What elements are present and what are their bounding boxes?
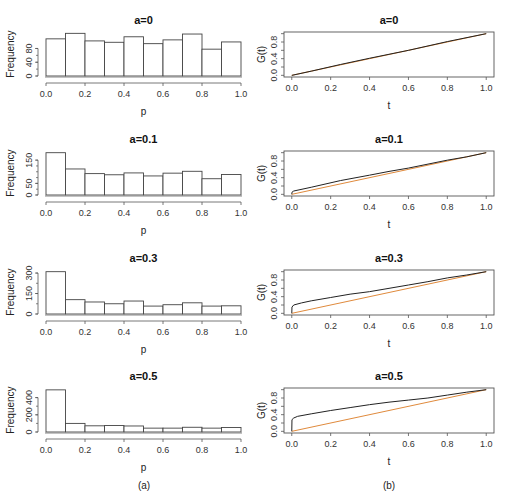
histogram-bar bbox=[202, 49, 222, 76]
y-tick-label: 400 bbox=[24, 390, 34, 405]
x-tick-label: 0.2 bbox=[324, 202, 337, 212]
empirical-curve bbox=[292, 34, 486, 76]
x-tick-label: 0.0 bbox=[286, 439, 299, 449]
x-axis-label: p bbox=[141, 225, 147, 236]
panels: a=00.00.20.40.60.81.0p04080Frequencya=00… bbox=[5, 14, 494, 473]
histogram-bar bbox=[183, 171, 203, 195]
y-tick-label: 150 bbox=[24, 286, 34, 301]
y-tick-label: 0 bbox=[24, 192, 34, 197]
x-tick-label: 1.0 bbox=[480, 321, 493, 331]
x-tick-label: 0.0 bbox=[286, 321, 299, 331]
x-tick-label: 0.0 bbox=[40, 89, 53, 99]
histogram-bar bbox=[144, 176, 164, 195]
chart-a-a=0.1: a=0.10.00.20.40.60.81.0p050150Frequency bbox=[5, 133, 247, 236]
x-tick-label: 0.4 bbox=[118, 208, 131, 218]
y-tick-label: 0.8 bbox=[269, 155, 279, 168]
x-tick-label: 0.0 bbox=[40, 208, 53, 218]
x-tick-label: 0.8 bbox=[441, 321, 454, 331]
y-tick-label: 0.4 bbox=[269, 171, 279, 184]
chart-title: a=0.1 bbox=[375, 133, 403, 145]
x-tick-label: 0.6 bbox=[402, 83, 415, 93]
histogram-bar bbox=[46, 272, 66, 314]
histogram-bar bbox=[105, 42, 125, 76]
histogram-bar bbox=[85, 426, 105, 432]
chart-title: a=0 bbox=[380, 14, 399, 26]
y-axis-label: G(t) bbox=[256, 284, 267, 301]
histogram-bar bbox=[163, 40, 183, 76]
histogram-bar bbox=[85, 41, 105, 76]
x-tick-label: 0.8 bbox=[196, 327, 209, 337]
chart-title: a=0.5 bbox=[375, 370, 403, 382]
chart-b-a=0.3: a=0.30.00.20.40.60.81.0t0.00.40.8G(t) bbox=[256, 252, 494, 349]
x-tick-label: 0.4 bbox=[363, 202, 376, 212]
histogram-bar bbox=[85, 302, 105, 314]
x-axis-label: t bbox=[388, 100, 391, 111]
x-tick-label: 0.4 bbox=[118, 327, 131, 337]
chart-title: a=0 bbox=[134, 14, 153, 26]
x-tick-label: 0.0 bbox=[40, 445, 53, 455]
y-tick-label: 50 bbox=[24, 178, 34, 188]
chart-title: a=0.3 bbox=[375, 252, 403, 264]
histogram-bar bbox=[222, 42, 242, 76]
x-tick-label: 0.6 bbox=[402, 321, 415, 331]
y-tick-label: 0.0 bbox=[269, 307, 279, 320]
y-tick-label: 0 bbox=[24, 311, 34, 316]
x-tick-label: 0.2 bbox=[324, 321, 337, 331]
histogram-bar bbox=[144, 306, 164, 314]
x-tick-label: 0.8 bbox=[441, 83, 454, 93]
y-axis-label: Frequency bbox=[5, 386, 16, 433]
x-tick-label: 0.0 bbox=[40, 327, 53, 337]
y-axis-label: G(t) bbox=[256, 46, 267, 63]
histogram-bar bbox=[46, 39, 66, 76]
x-tick-label: 0.0 bbox=[286, 83, 299, 93]
reference-line bbox=[292, 390, 486, 432]
x-tick-label: 1.0 bbox=[480, 439, 493, 449]
chart-title: a=0.1 bbox=[130, 133, 158, 145]
x-axis-label: p bbox=[141, 462, 147, 473]
caption-a: (a) bbox=[138, 480, 150, 491]
y-tick-label: 0.4 bbox=[269, 290, 279, 303]
histogram-bar bbox=[66, 33, 86, 76]
caption-b: (b) bbox=[383, 480, 395, 491]
x-tick-label: 0.8 bbox=[196, 89, 209, 99]
histogram-bar bbox=[124, 426, 144, 432]
y-tick-label: 80 bbox=[24, 43, 34, 53]
histogram-bar bbox=[222, 175, 242, 195]
y-tick-label: 40 bbox=[24, 57, 34, 67]
histogram-bar bbox=[202, 179, 222, 195]
x-tick-label: 0.8 bbox=[441, 202, 454, 212]
histogram-bar bbox=[183, 427, 203, 432]
x-tick-label: 0.2 bbox=[79, 89, 92, 99]
x-tick-label: 0.6 bbox=[402, 439, 415, 449]
histogram-bar bbox=[163, 305, 183, 314]
y-tick-label: 300 bbox=[24, 266, 34, 281]
histogram-bar bbox=[183, 34, 203, 76]
histogram-bar bbox=[66, 423, 86, 432]
x-tick-label: 1.0 bbox=[235, 208, 248, 218]
y-tick-label: 150 bbox=[24, 153, 34, 168]
histogram-bar bbox=[66, 300, 86, 314]
y-axis-label: Frequency bbox=[5, 30, 16, 77]
x-tick-label: 0.2 bbox=[324, 439, 337, 449]
histogram-bar bbox=[124, 173, 144, 195]
histogram-bar bbox=[202, 428, 222, 432]
y-tick-label: 0 bbox=[24, 429, 34, 434]
y-axis-label: Frequency bbox=[5, 268, 16, 315]
x-tick-label: 1.0 bbox=[480, 83, 493, 93]
histogram-bar bbox=[222, 428, 242, 432]
histogram-bar bbox=[163, 173, 183, 195]
x-tick-label: 0.4 bbox=[118, 89, 131, 99]
chart-title: a=0.5 bbox=[130, 370, 158, 382]
y-axis-label: G(t) bbox=[256, 402, 267, 419]
figure: a=00.00.20.40.60.81.0p04080Frequencya=00… bbox=[0, 0, 507, 496]
x-axis-label: t bbox=[388, 219, 391, 230]
reference-line bbox=[292, 272, 486, 314]
x-axis-label: p bbox=[141, 344, 147, 355]
x-tick-label: 0.6 bbox=[402, 202, 415, 212]
y-tick-label: 0.0 bbox=[269, 188, 279, 201]
x-tick-label: 0.8 bbox=[196, 445, 209, 455]
x-tick-label: 0.4 bbox=[363, 439, 376, 449]
y-tick-label: 0.4 bbox=[269, 52, 279, 65]
x-tick-label: 0.2 bbox=[79, 445, 92, 455]
histogram-bar bbox=[183, 303, 203, 314]
